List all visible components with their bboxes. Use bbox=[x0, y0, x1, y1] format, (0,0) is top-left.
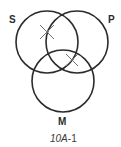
label-s: S bbox=[9, 15, 16, 25]
label-m: M bbox=[58, 117, 66, 127]
caption-italic: 10A bbox=[50, 133, 68, 144]
x-mark-pm bbox=[66, 54, 78, 66]
label-p: P bbox=[108, 15, 115, 25]
circle-m bbox=[32, 50, 94, 112]
figure-caption: 10A-1 bbox=[50, 134, 77, 144]
caption-suffix: -1 bbox=[68, 133, 77, 144]
circle-p bbox=[46, 11, 108, 73]
